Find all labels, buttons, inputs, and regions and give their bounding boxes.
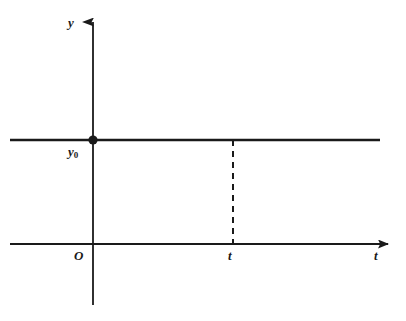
constant-function-graph: y y0 O t t	[0, 0, 406, 321]
y-axis-label: y	[68, 16, 74, 29]
x-axis-label: t	[374, 249, 378, 262]
graph-canvas	[0, 0, 406, 321]
y-intercept-subscript: 0	[74, 150, 79, 160]
t-tick-label: t	[228, 249, 232, 262]
y-intercept-point	[88, 135, 97, 144]
y-intercept-base: y	[68, 144, 74, 159]
origin-label: O	[74, 249, 83, 262]
y-intercept-label: y0	[68, 145, 78, 158]
